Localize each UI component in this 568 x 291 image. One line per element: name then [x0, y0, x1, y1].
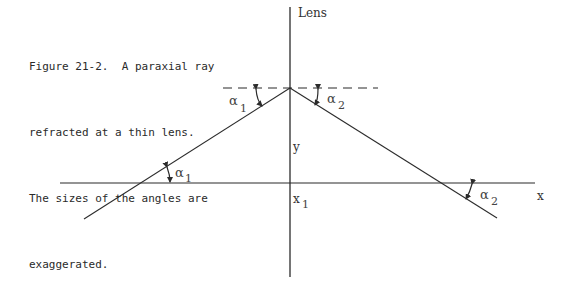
lens-label: Lens [298, 6, 327, 20]
svg-text:1: 1 [185, 172, 192, 185]
svg-text:1: 1 [240, 102, 247, 115]
svg-text:α: α [327, 91, 336, 106]
angle-arc-alpha1-top [256, 89, 262, 106]
y-label: y [292, 140, 300, 154]
svg-text:α: α [480, 187, 489, 202]
svg-text:1: 1 [302, 198, 309, 211]
angle-arc-alpha1-bottom [167, 167, 170, 182]
incident-ray [84, 88, 290, 219]
alpha1-bottom-label: α 1 [175, 165, 192, 185]
alpha1-top-label: α 1 [229, 93, 247, 115]
svg-text:α: α [175, 165, 184, 180]
svg-text:2: 2 [491, 195, 498, 208]
svg-text:α: α [229, 93, 238, 108]
angle-arc-alpha2-bottom [466, 184, 472, 199]
lens-ray-diagram: Lens y x x 1 α 1 α 2 α 1 α 2 [0, 0, 568, 291]
x1-label: x 1 [293, 192, 309, 211]
alpha2-top-label: α 2 [327, 91, 345, 112]
angle-arc-alpha2-top [315, 89, 318, 105]
alpha2-bottom-label: α 2 [480, 187, 498, 208]
x-axis-label: x [537, 189, 544, 203]
svg-text:2: 2 [338, 99, 345, 112]
svg-text:x: x [293, 192, 300, 206]
